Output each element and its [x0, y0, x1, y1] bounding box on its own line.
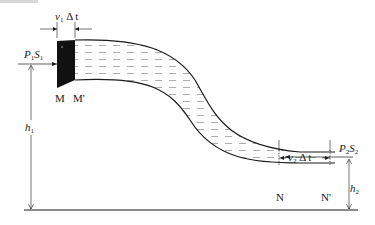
- label-v1-dt: v1 Δ t: [55, 11, 78, 24]
- label-p2-s2: P2S2: [339, 143, 358, 156]
- label-h2: h2: [350, 183, 359, 196]
- label-M: M: [55, 93, 65, 104]
- fluid-region: [75, 35, 335, 170]
- label-h1: h1: [25, 122, 34, 135]
- fluid-block-MM: [57, 40, 75, 88]
- flow-tube-diagram: [0, 0, 375, 225]
- label-N: N: [276, 192, 284, 203]
- label-M-prime: M': [73, 93, 85, 104]
- label-N-prime: N': [321, 192, 331, 203]
- label-p1-s1: P1S1: [24, 49, 43, 62]
- label-v2-dt: v2 Δ t: [288, 152, 311, 165]
